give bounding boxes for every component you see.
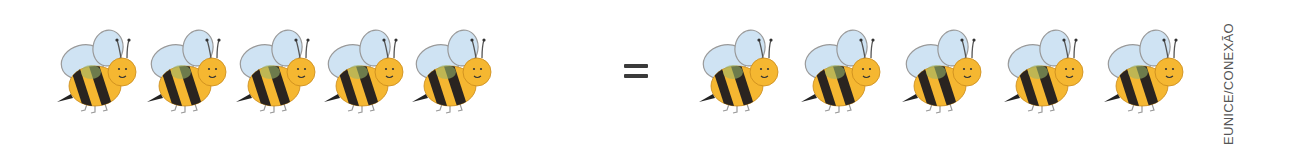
right-bee-1-icon: [695, 28, 787, 116]
right-bee-2-icon: [797, 28, 889, 116]
equals-sign: [624, 64, 648, 82]
right-bee-5-icon: [1100, 28, 1192, 116]
left-bee-2-icon: [143, 28, 235, 116]
right-bee-3-icon: [898, 28, 990, 116]
left-bee-4-icon: [320, 28, 412, 116]
image-credit: EUNICE/CONEXÃO: [1221, 23, 1236, 145]
equals-bar-bottom: [624, 74, 648, 78]
right-bee-4-icon: [1000, 28, 1092, 116]
left-bee-3-icon: [232, 28, 324, 116]
left-bee-1-icon: [53, 28, 145, 116]
left-bee-5-icon: [408, 28, 500, 116]
equals-bar-top: [624, 64, 648, 68]
